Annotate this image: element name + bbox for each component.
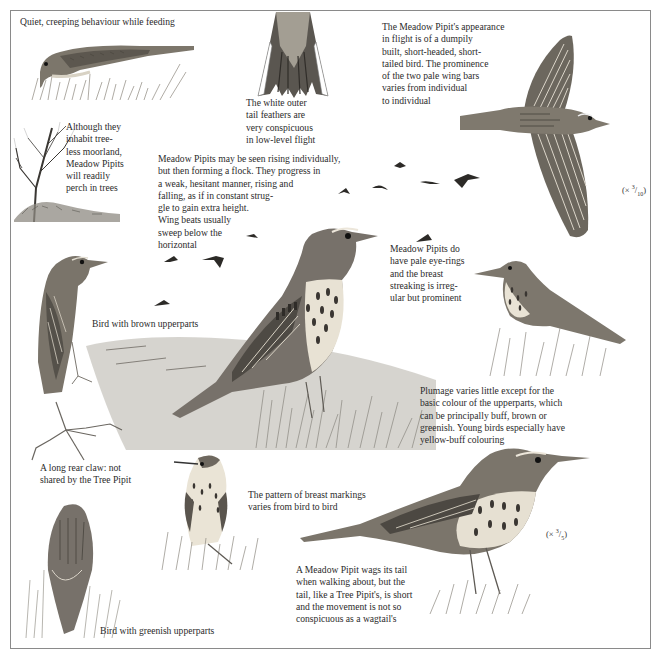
greenish-bird-illustration	[24, 500, 124, 640]
small-bird-in-grass-illustration	[470, 258, 630, 378]
scale-standing: (× 3/5)	[546, 528, 567, 541]
caption-trees: Although they inhabit tree- less moorlan…	[66, 121, 124, 195]
tail-feathers-illustration	[256, 12, 330, 98]
caption-feeding: Quiet, creeping behaviour while feeding	[20, 16, 175, 28]
flying-silhouette-1	[394, 162, 406, 168]
main-standing-bird-illustration	[172, 222, 412, 422]
scale-flight: (× 3/10)	[622, 184, 646, 197]
caption-tail: The white outer tail feathers are very c…	[246, 97, 315, 146]
caption-wagging: A Meadow Pipit wags its tail when walkin…	[296, 564, 412, 625]
feeding-bird-illustration	[30, 34, 200, 102]
rear-claw-illustration	[26, 400, 126, 462]
caption-eye-rings: Meadow Pipits do have pale eye-rings and…	[390, 243, 465, 304]
caption-greenish: Bird with greenish upperparts	[100, 625, 214, 637]
caption-plumage: Plumage varies little except for the bas…	[420, 385, 565, 446]
caption-claw: A long rear claw: not shared by the Tree…	[40, 462, 131, 487]
moorland-ground-illustration	[12, 192, 122, 222]
